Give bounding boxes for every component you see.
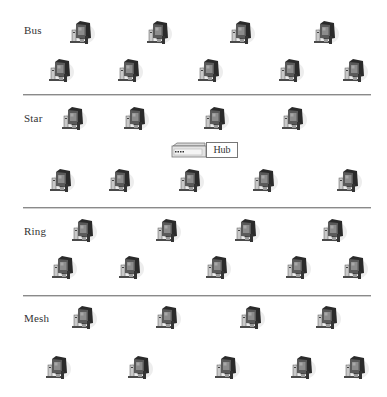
- computer-node-ring: [68, 218, 98, 244]
- desktop-computer-icon: [339, 255, 369, 281]
- computer-node-star: [175, 168, 205, 194]
- desktop-computer-icon: [194, 58, 224, 84]
- desktop-computer-icon: [175, 168, 205, 194]
- desktop-computer-icon: [42, 355, 72, 381]
- divider-bus-star: [23, 94, 371, 96]
- computer-node-bus: [194, 58, 224, 84]
- desktop-computer-icon: [282, 255, 312, 281]
- computer-node-mesh: [211, 355, 241, 381]
- hub-device-icon: [171, 142, 207, 158]
- computer-node-ring: [282, 255, 312, 281]
- desktop-computer-icon: [45, 58, 75, 84]
- desktop-computer-icon: [152, 218, 182, 244]
- computer-node-mesh: [312, 305, 342, 331]
- computer-node-star: [200, 106, 230, 132]
- desktop-computer-icon: [231, 218, 261, 244]
- computer-node-bus: [114, 58, 144, 84]
- computer-node-bus: [310, 20, 340, 46]
- computer-node-mesh: [68, 305, 98, 331]
- computer-node-star: [333, 168, 363, 194]
- desktop-computer-icon: [211, 355, 241, 381]
- computer-node-bus: [45, 58, 75, 84]
- desktop-computer-icon: [143, 20, 173, 46]
- computer-node-ring: [202, 255, 232, 281]
- computer-node-bus: [275, 58, 305, 84]
- desktop-computer-icon: [124, 355, 154, 381]
- hub: Hub: [171, 142, 238, 158]
- computer-node-mesh: [152, 305, 182, 331]
- desktop-computer-icon: [312, 305, 342, 331]
- desktop-computer-icon: [200, 106, 230, 132]
- desktop-computer-icon: [275, 58, 305, 84]
- desktop-computer-icon: [249, 168, 279, 194]
- desktop-computer-icon: [68, 305, 98, 331]
- desktop-computer-icon: [68, 218, 98, 244]
- computer-node-mesh: [124, 355, 154, 381]
- desktop-computer-icon: [115, 255, 145, 281]
- computer-node-bus: [66, 20, 96, 46]
- computer-node-star: [58, 106, 88, 132]
- computer-node-star: [249, 168, 279, 194]
- computer-node-star: [105, 168, 135, 194]
- hub-label: Hub: [206, 142, 238, 158]
- label-star: Star: [24, 112, 43, 124]
- divider-ring-mesh: [23, 295, 371, 297]
- computer-node-ring: [152, 218, 182, 244]
- desktop-computer-icon: [339, 58, 369, 84]
- computer-node-ring: [318, 218, 348, 244]
- desktop-computer-icon: [318, 218, 348, 244]
- computer-node-star: [46, 168, 76, 194]
- computer-node-ring: [115, 255, 145, 281]
- computer-node-star: [120, 106, 150, 132]
- desktop-computer-icon: [310, 20, 340, 46]
- computer-node-mesh: [287, 355, 317, 381]
- computer-node-bus: [226, 20, 256, 46]
- desktop-computer-icon: [202, 255, 232, 281]
- computer-node-ring: [48, 255, 78, 281]
- desktop-computer-icon: [340, 355, 370, 381]
- desktop-computer-icon: [105, 168, 135, 194]
- computer-node-bus: [339, 58, 369, 84]
- computer-node-mesh: [42, 355, 72, 381]
- divider-star-ring: [23, 207, 371, 209]
- desktop-computer-icon: [48, 255, 78, 281]
- desktop-computer-icon: [226, 20, 256, 46]
- desktop-computer-icon: [287, 355, 317, 381]
- label-mesh: Mesh: [24, 312, 49, 324]
- desktop-computer-icon: [152, 305, 182, 331]
- desktop-computer-icon: [58, 106, 88, 132]
- computer-node-star: [278, 106, 308, 132]
- computer-node-mesh: [340, 355, 370, 381]
- computer-node-mesh: [236, 305, 266, 331]
- desktop-computer-icon: [46, 168, 76, 194]
- computer-node-ring: [339, 255, 369, 281]
- desktop-computer-icon: [236, 305, 266, 331]
- desktop-computer-icon: [120, 106, 150, 132]
- computer-node-ring: [231, 218, 261, 244]
- computer-node-bus: [143, 20, 173, 46]
- desktop-computer-icon: [278, 106, 308, 132]
- label-ring: Ring: [24, 225, 46, 237]
- desktop-computer-icon: [114, 58, 144, 84]
- desktop-computer-icon: [333, 168, 363, 194]
- label-bus: Bus: [24, 24, 42, 36]
- desktop-computer-icon: [66, 20, 96, 46]
